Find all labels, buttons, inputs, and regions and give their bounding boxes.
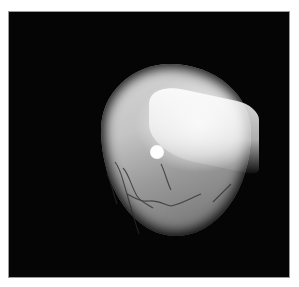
image-frame xyxy=(8,11,290,278)
blood-vessels xyxy=(101,64,251,236)
fundus-retina xyxy=(101,64,251,236)
